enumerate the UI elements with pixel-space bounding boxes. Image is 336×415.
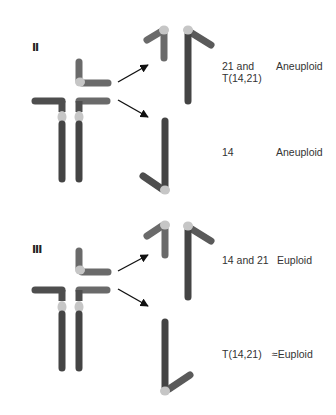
section-ii-outcome-2-chromosomes: 14 (222, 146, 234, 158)
section-iii-outcome-2-result: ≈Euploid (272, 348, 313, 360)
section-iii-numeral: III (32, 243, 41, 256)
section-ii-top-daughter (147, 26, 211, 102)
section-ii-outcome-1-chromosomes: 21 and T(14,21) (222, 60, 262, 84)
section-ii-parent-chromosomes (35, 62, 108, 179)
section-iii-top-daughter (147, 221, 211, 298)
section-iii-arrows (118, 255, 148, 306)
section-iii-outcome-2-chromosomes: T(14,21) (222, 348, 262, 360)
section-ii-bottom-daughter (143, 121, 170, 195)
section-ii-outcome-1-result: Aneuploid (276, 60, 323, 72)
section-iii-outcome-1-result: Euploid (277, 254, 312, 266)
section-ii-arrows (118, 65, 148, 117)
section-iii-bottom-daughter (160, 322, 190, 396)
section-iii-parent-chromosomes (35, 251, 108, 368)
section-ii-outcome-2-result: Aneuploid (276, 146, 323, 158)
section-ii-numeral: II (32, 41, 38, 54)
section-iii-outcome-1-chromosomes: 14 and 21 (222, 254, 269, 266)
